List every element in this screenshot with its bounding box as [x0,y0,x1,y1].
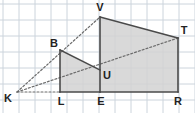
vertex-label-r: R [174,95,182,107]
vertex-label-v: V [96,1,104,13]
figure-canvas: VBTUKLER [0,0,195,113]
vertex-label-e: E [97,95,104,107]
vertex-label-t: T [181,24,188,36]
vertex-label-u: U [103,69,111,81]
geometry-figure: VBTUKLER [0,0,195,113]
vertex-label-k: K [4,92,12,104]
vertex-label-l: L [58,95,65,107]
vertex-label-b: B [50,37,58,49]
